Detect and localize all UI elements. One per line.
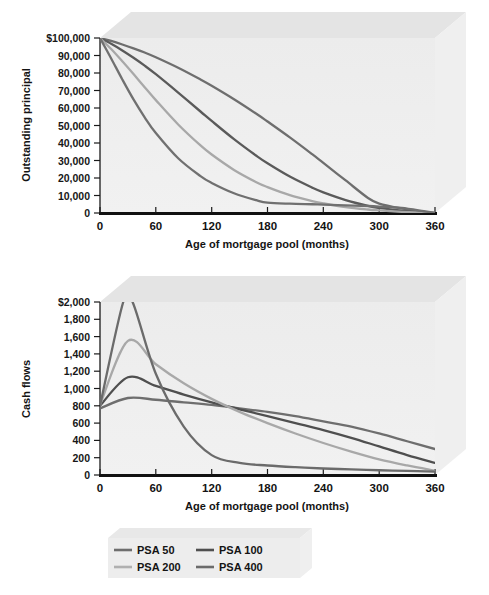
chart-legend: PSA 50 PSA 100 PSA 200 PSA 400: [0, 520, 489, 595]
legend-box-top-face: [108, 528, 312, 538]
box-right-face: [435, 276, 466, 475]
legend-entry-label: PSA 200: [137, 561, 181, 573]
y-tick-label: $2,000: [58, 296, 90, 308]
legend-entry-label: PSA 50: [137, 544, 175, 556]
figure-mortgage-prepayment: $100,000 90,000 80,000 70,000 60,000 50,…: [0, 0, 489, 595]
y-tick-label: 800: [72, 400, 90, 412]
y-axis-title: Outstanding principal: [20, 68, 32, 182]
cash-flows-svg: $2,000 1,800 1,600 1,400 1,200 1,000 800…: [0, 262, 489, 518]
y-tick-label: 20,000: [58, 172, 90, 184]
y-tick-marks: [94, 302, 100, 475]
x-tick-label: 60: [149, 220, 162, 232]
y-tick-label: 1,000: [64, 383, 90, 395]
x-tick-label: 240: [314, 482, 333, 494]
y-axis-title: Cash flows: [20, 360, 32, 418]
x-tick-label: 0: [97, 482, 103, 494]
x-tick-label: 120: [202, 482, 221, 494]
y-tick-label: 10,000: [58, 190, 90, 202]
y-tick-marks: [94, 38, 100, 213]
outstanding-principal-svg: $100,000 90,000 80,000 70,000 60,000 50,…: [0, 0, 489, 258]
y-tick-label: 90,000: [58, 50, 90, 62]
x-tick-label: 180: [258, 482, 277, 494]
y-tick-label: $100,000: [46, 32, 90, 44]
y-tick-label: 50,000: [58, 120, 90, 132]
x-tick-label: 180: [258, 220, 277, 232]
y-tick-label: 200: [72, 452, 90, 464]
y-tick-label: 1,200: [64, 365, 90, 377]
box-top-face: [100, 12, 466, 38]
box-top-face: [100, 276, 466, 302]
x-tick-label: 0: [97, 220, 103, 232]
x-axis-title: Age of mortgage pool (months): [185, 238, 349, 250]
y-tick-label: 40,000: [58, 137, 90, 149]
y-tick-label: 400: [72, 434, 90, 446]
chart-outstanding-principal: $100,000 90,000 80,000 70,000 60,000 50,…: [0, 0, 489, 258]
legend-entry-label: PSA 100: [219, 544, 263, 556]
y-tick-label: 1,800: [64, 313, 90, 325]
y-tick-label: 1,600: [64, 331, 90, 343]
x-tick-labels: 0 60 120 180 240 300 360: [97, 482, 445, 494]
legend-svg: PSA 50 PSA 100 PSA 200 PSA 400: [0, 520, 489, 595]
x-tick-label: 240: [314, 220, 333, 232]
y-tick-label: 1,400: [64, 348, 90, 360]
y-tick-label: 70,000: [58, 85, 90, 97]
x-tick-label: 300: [370, 220, 389, 232]
y-tick-label: 60,000: [58, 102, 90, 114]
box-right-face: [435, 12, 466, 213]
y-tick-labels: $100,000 90,000 80,000 70,000 60,000 50,…: [46, 32, 90, 219]
x-tick-label: 300: [370, 482, 389, 494]
x-axis-title: Age of mortgage pool (months): [185, 500, 349, 512]
x-tick-label: 360: [425, 482, 444, 494]
y-tick-label: 30,000: [58, 155, 90, 167]
y-tick-label: 0: [84, 469, 90, 481]
y-tick-labels: $2,000 1,800 1,600 1,400 1,200 1,000 800…: [58, 296, 90, 481]
x-tick-label: 60: [149, 482, 162, 494]
y-tick-label: 80,000: [58, 67, 90, 79]
x-tick-label: 360: [425, 220, 444, 232]
chart-cash-flows: $2,000 1,800 1,600 1,400 1,200 1,000 800…: [0, 262, 489, 518]
x-tick-label: 120: [202, 220, 221, 232]
legend-entry-label: PSA 400: [219, 561, 263, 573]
x-tick-labels: 0 60 120 180 240 300 360: [97, 220, 445, 232]
y-tick-label: 600: [72, 417, 90, 429]
y-tick-label: 0: [84, 207, 90, 219]
